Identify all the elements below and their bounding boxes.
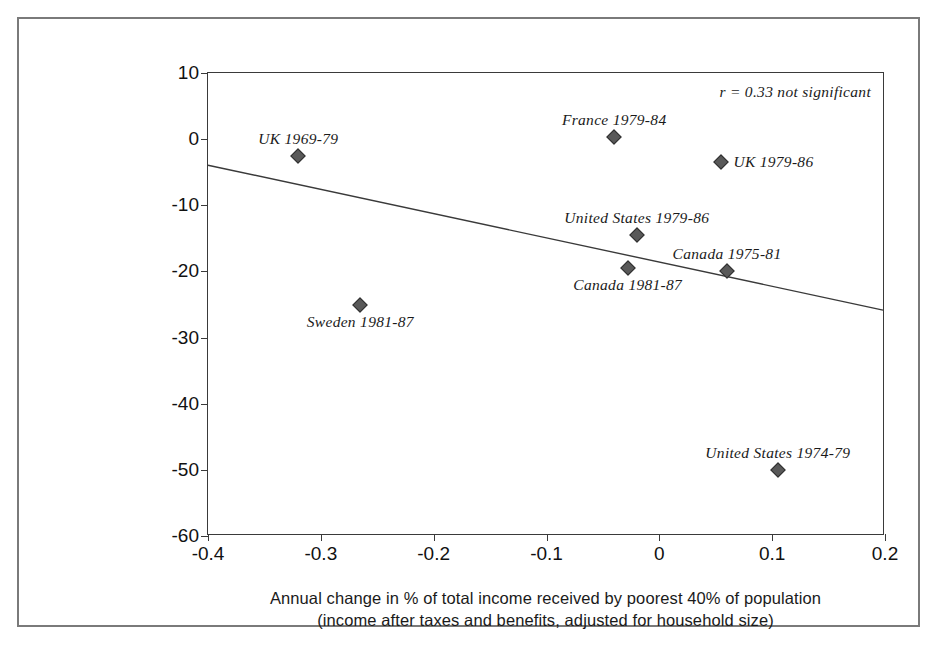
x-axis-title-line1: Annual change in % of total income recei…: [207, 587, 884, 609]
data-point-label: France 1979-84: [562, 111, 667, 129]
x-tick-mark: [772, 534, 773, 541]
x-tick-mark: [885, 534, 886, 541]
data-point-label: Sweden 1981-87: [307, 313, 414, 331]
x-tick-mark: [208, 534, 209, 541]
y-tick-label: 0: [188, 128, 199, 150]
figure-frame: Annual change in coronary heart disease …: [17, 17, 920, 627]
x-tick-label: 0: [654, 543, 665, 565]
x-tick-label: -0.2: [417, 543, 450, 565]
correlation-annotation: r = 0.33 not significant: [719, 83, 871, 101]
chart-page: Annual change in coronary heart disease …: [0, 0, 937, 658]
x-axis-title-line2: (income after taxes and benefits, adjust…: [207, 609, 884, 631]
data-point-label: UK 1969-79: [258, 130, 338, 148]
x-tick-mark: [434, 534, 435, 541]
y-tick-mark: [201, 73, 208, 74]
x-tick-label: -0.1: [530, 543, 563, 565]
y-tick-mark: [201, 139, 208, 140]
x-tick-label: 0.2: [872, 543, 898, 565]
x-tick-label: -0.3: [304, 543, 337, 565]
y-tick-label: -30: [172, 327, 199, 349]
x-tick-mark: [321, 534, 322, 541]
plot-area: 100-10-20-30-40-50-60 -0.4-0.3-0.2-0.100…: [207, 72, 884, 535]
data-point-label: United States 1974-79: [705, 444, 850, 462]
y-tick-mark: [201, 404, 208, 405]
y-tick-mark: [201, 470, 208, 471]
y-tick-mark: [201, 338, 208, 339]
x-axis-title: Annual change in % of total income recei…: [207, 587, 884, 632]
data-point-label: UK 1979-86: [733, 153, 813, 171]
y-tick-label: -40: [172, 393, 199, 415]
data-point-label: Canada 1981-87: [573, 276, 682, 294]
x-tick-mark: [547, 534, 548, 541]
y-tick-label: -20: [172, 260, 199, 282]
x-tick-label: 0.1: [759, 543, 785, 565]
y-tick-mark: [201, 536, 208, 537]
y-tick-mark: [201, 205, 208, 206]
y-tick-label: -50: [172, 459, 199, 481]
data-point-label: Canada 1975-81: [673, 245, 782, 263]
data-point-label: United States 1979-86: [564, 209, 709, 227]
x-tick-mark: [659, 534, 660, 541]
y-tick-label: 10: [178, 62, 199, 84]
y-tick-mark: [201, 271, 208, 272]
x-tick-label: -0.4: [192, 543, 225, 565]
y-tick-label: -10: [172, 194, 199, 216]
